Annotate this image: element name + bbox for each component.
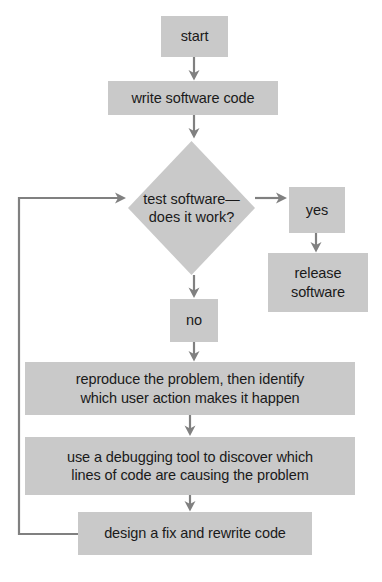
node-design-fix[interactable]: design a fix and rewrite code [78,512,312,555]
connector-debug-to-design [185,495,196,512]
connector-write-to-test [189,115,200,139]
node-use-debugging-tool[interactable]: use a debugging tool to discover which l… [25,437,355,495]
connector-test-to-yes [255,193,287,204]
node-test-software-label: test software— does it work? [128,141,255,275]
node-no[interactable]: no [170,299,218,342]
connector-reproduce-to-debug [185,415,196,436]
connector-no-to-reproduce [189,342,200,362]
node-yes[interactable]: yes [289,187,345,233]
node-release-software[interactable]: release software [268,253,368,312]
node-start[interactable]: start [161,16,228,57]
connector-start-to-write [189,57,200,81]
node-write-software-code[interactable]: write software code [108,81,278,115]
connector-yes-to-release [311,233,322,253]
connector-test-to-no [189,275,200,298]
node-reproduce-problem[interactable]: reproduce the problem, then identify whi… [25,362,355,415]
flowchart-diagram: start write software code test software—… [0,0,382,582]
node-test-software[interactable]: test software— does it work? [128,141,255,275]
